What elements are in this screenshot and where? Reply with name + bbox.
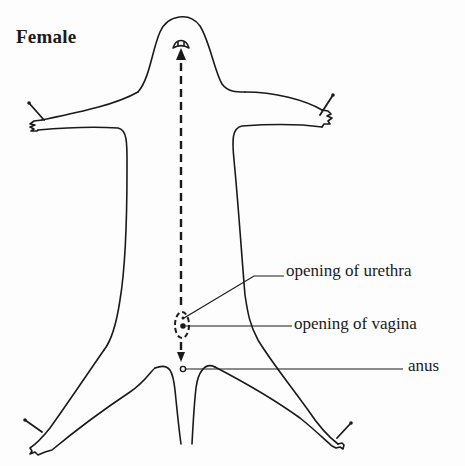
rat-specimen-drawing [0,0,465,466]
mouth-icon [173,41,189,49]
right-hind-leg [215,367,344,449]
urethra-leader-line [184,276,284,318]
left-hind-leg [30,350,155,455]
body-outline [30,17,344,455]
label-anus: anus [408,357,439,374]
right-hind-pin-head [349,421,353,425]
right-hand [322,110,332,127]
right-arm-upper [245,92,322,110]
right-fore-pin-icon [320,95,333,115]
right-hind-pin-icon [337,423,351,438]
left-hind-pin-icon [25,420,42,432]
arrow-up-icon [176,48,186,60]
tail-left [155,366,181,444]
diagram-canvas: Female [0,0,465,466]
anus-marker [180,366,185,371]
left-fore-pin-head [27,101,31,105]
left-hind-pin-head [23,418,27,422]
right-fore-pin-head [331,93,335,97]
arrow-down-icon [177,352,185,362]
head-outline [138,17,245,92]
left-arm-lower-and-side [38,127,127,350]
tail-right [192,366,215,444]
vagina-opening-dot [180,323,186,329]
right-arm-lower-and-side [233,125,338,444]
label-opening-of-vagina: opening of vagina [294,315,417,332]
left-arm-upper [42,92,138,120]
label-opening-of-urethra: opening of urethra [286,262,412,279]
left-fore-pin-icon [29,103,44,120]
